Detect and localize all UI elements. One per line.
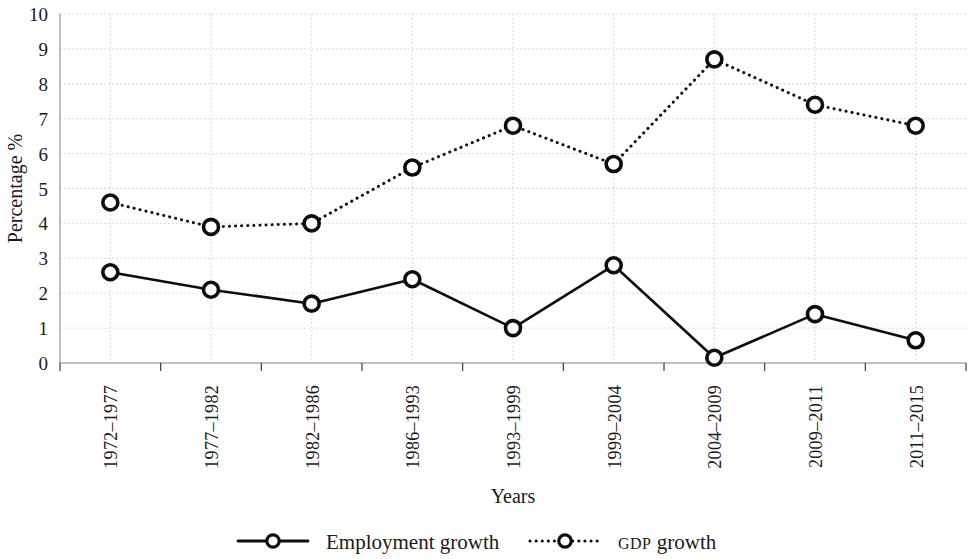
line-chart: 0123456789101972–19771977–19821982–19861… [0, 0, 976, 559]
y-axis-tick-label: 2 [39, 283, 49, 304]
y-axis-tick-label: 3 [39, 248, 49, 269]
x-axis-tick-label: 1986–1993 [403, 385, 423, 469]
y-axis-tick-label: 10 [29, 4, 48, 25]
data-point-marker[interactable] [808, 307, 823, 322]
legend-label-gdp-rest: growth [652, 530, 717, 554]
x-axis-tick-label: 1993–1999 [504, 385, 524, 469]
data-point-marker[interactable] [103, 195, 118, 210]
chart-figure: 0123456789101972–19771977–19821982–19861… [0, 0, 976, 559]
y-axis-tick-label: 6 [39, 144, 49, 165]
x-axis-tick-label: 2011–2015 [907, 385, 927, 468]
data-point-marker[interactable] [606, 157, 621, 172]
legend-label-gdp: GDP growth [618, 530, 717, 554]
data-point-marker[interactable] [304, 296, 319, 311]
data-point-marker[interactable] [204, 282, 219, 297]
y-axis-tick-label: 0 [39, 353, 49, 374]
data-point-marker[interactable] [908, 333, 923, 348]
y-axis-tick-label: 4 [39, 213, 49, 234]
y-axis-tick-label: 7 [39, 109, 49, 130]
x-axis-title: Years [491, 485, 536, 507]
data-point-marker[interactable] [506, 321, 521, 336]
data-point-marker[interactable] [204, 219, 219, 234]
x-axis-tick-label: 1982–1986 [303, 385, 323, 469]
x-axis-tick-label: 1977–1982 [202, 385, 222, 469]
y-axis-tick-label: 1 [39, 318, 49, 339]
data-point-marker[interactable] [405, 272, 420, 287]
x-axis-tick-label: 1972–1977 [101, 385, 121, 469]
data-point-marker[interactable] [707, 52, 722, 67]
y-axis-tick-label: 5 [39, 179, 49, 200]
x-axis-tick-label: 2004–2009 [705, 385, 725, 469]
data-point-marker[interactable] [707, 350, 722, 365]
y-axis-tick-label: 8 [39, 74, 49, 95]
data-point-marker[interactable] [908, 118, 923, 133]
y-axis-tick-label: 9 [39, 39, 49, 60]
x-axis-tick-label: 1999–2004 [605, 385, 625, 469]
data-point-marker[interactable] [808, 97, 823, 112]
data-point-marker[interactable] [405, 160, 420, 175]
data-point-marker[interactable] [304, 216, 319, 231]
y-axis-title: Percentage % [4, 134, 27, 243]
legend-marker-employment [267, 535, 279, 547]
data-point-marker[interactable] [606, 258, 621, 273]
x-axis-tick-label: 2009–2011 [806, 385, 826, 468]
legend-marker-gdp [559, 535, 571, 547]
legend-label-gdp-prefix: GDP [618, 535, 652, 552]
data-point-marker[interactable] [506, 118, 521, 133]
legend-label-employment: Employment growth [326, 530, 500, 554]
data-point-marker[interactable] [103, 265, 118, 280]
chart-legend: Employment growthGDP growth [238, 530, 717, 554]
